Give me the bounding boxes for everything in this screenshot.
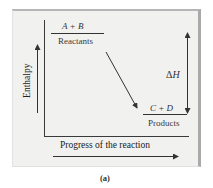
reaction-arrow-icon xyxy=(106,52,137,108)
products-formula: C + D xyxy=(150,104,173,113)
products-label: Products xyxy=(148,119,180,128)
delta-h-label: ΔH xyxy=(166,70,180,80)
x-axis-label: Progress of the reaction xyxy=(60,141,150,151)
h-variable: H xyxy=(172,69,179,80)
figure-caption: (a) xyxy=(100,174,110,183)
reactants-formula: A + B xyxy=(62,22,83,31)
y-axis-label: Enthalpy xyxy=(23,59,33,103)
reactants-label: Reactants xyxy=(58,37,93,46)
